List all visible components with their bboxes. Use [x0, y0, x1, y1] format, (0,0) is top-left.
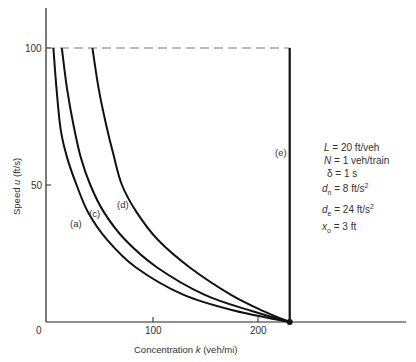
x-tick-label-100: 100	[145, 325, 162, 336]
curve-label-e: (e)	[275, 147, 287, 158]
param-dn: dn = 8 ft/s2	[322, 180, 389, 200]
param-L: L = 20 ft/veh	[324, 142, 389, 155]
y-tick-label-50: 50	[31, 180, 43, 191]
jam-concentration-point	[287, 319, 293, 325]
param-xo: xo = 3 ft	[322, 221, 389, 238]
curve-c	[62, 48, 290, 322]
y-tick-label-100: 100	[25, 43, 42, 54]
x-tick-label-200: 200	[250, 325, 267, 336]
parameter-list: L = 20 ft/veh N = 1 veh/train δ = 1 s dn…	[324, 142, 389, 237]
curve-label-a: (a)	[70, 218, 82, 229]
curve-label-c: (c)	[89, 208, 100, 219]
param-delta: δ = 1 s	[324, 168, 389, 181]
param-de: de = 24 ft/s2	[322, 201, 389, 221]
param-N: N = 1 veh/train	[324, 155, 389, 168]
y-axis-title: Speed u (ft/s)	[11, 158, 22, 215]
curve-d	[92, 48, 289, 322]
curve-a	[53, 48, 289, 322]
curve-label-d: (d)	[117, 199, 129, 210]
x-tick-label-0: 0	[36, 325, 42, 336]
x-axis-title: Concentration k (veh/mi)	[134, 344, 238, 355]
